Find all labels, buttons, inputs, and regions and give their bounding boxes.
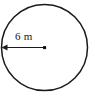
radius-dimension-label: 6 m bbox=[15, 30, 33, 42]
center-point-marker bbox=[43, 46, 46, 49]
geometry-figure: 6 m bbox=[0, 0, 95, 99]
circle-radius-diagram: 6 m bbox=[0, 0, 95, 99]
